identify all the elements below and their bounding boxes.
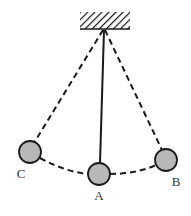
pendulum-diagram: C A B	[0, 0, 191, 216]
pendulum-ball-c	[19, 141, 41, 163]
label-b: B	[172, 174, 181, 189]
swing-arc-right	[110, 165, 156, 174]
swing-arc	[40, 158, 88, 174]
string-to-a	[100, 30, 104, 163]
label-a: A	[94, 188, 104, 203]
string-to-b	[105, 30, 162, 150]
pendulum-ball-b	[155, 149, 177, 171]
ceiling-support	[80, 12, 130, 29]
pendulum-ball-a	[88, 163, 110, 185]
label-c: C	[17, 166, 26, 181]
string-to-c	[34, 30, 103, 143]
